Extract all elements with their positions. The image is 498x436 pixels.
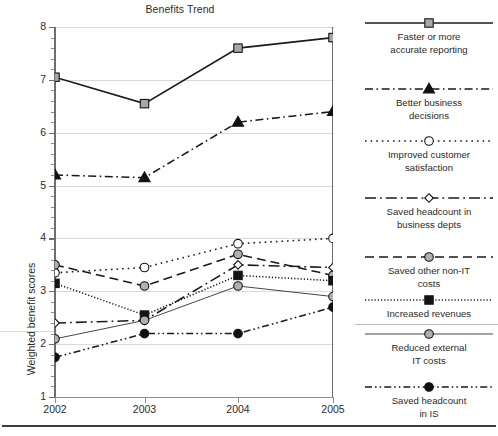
data-point-marker: [140, 263, 149, 272]
x-axis-tick: [55, 397, 56, 403]
y-axis-tick-label: 1: [26, 390, 46, 402]
legend-swatch: [364, 134, 494, 148]
legend-item-1[interactable]: Faster or moreaccurate reporting: [360, 16, 498, 57]
data-point-marker: [234, 282, 243, 291]
y-axis-tick-label: 2: [26, 337, 46, 349]
x-axis-tick-label: 2003: [122, 403, 168, 415]
legend-item-label-continued: in IS: [360, 407, 498, 420]
legend-item-label: Saved headcount: [360, 394, 498, 407]
legend-line-sample: [364, 250, 494, 264]
data-point-marker: [55, 261, 59, 270]
data-point-marker: [234, 261, 243, 270]
legend-item-4[interactable]: Saved headcount inbusiness depts: [360, 191, 498, 232]
data-point-marker: [55, 353, 59, 362]
x-axis-tick: [238, 397, 239, 403]
data-point-marker: [55, 335, 59, 344]
legend-item-label: Saved other non-IT: [360, 264, 498, 277]
legend-item-5[interactable]: Saved other non-ITcosts: [360, 250, 498, 291]
legend-item-label: Improved customer: [360, 148, 498, 161]
legend-item-label-continued: costs: [360, 277, 498, 290]
data-point-marker: [329, 292, 333, 301]
legend-marker-icon: [423, 83, 434, 93]
series-8: [55, 303, 333, 362]
legend-marker-icon: [425, 19, 433, 27]
data-point-marker: [55, 73, 59, 81]
legend-line-sample: [364, 293, 494, 307]
data-point-marker: [234, 329, 243, 338]
data-point-marker: [329, 33, 333, 41]
x-axis-tick-label: 2005: [310, 403, 356, 415]
legend-line-sample: [364, 134, 494, 148]
legend-swatch: [364, 16, 494, 30]
legend-marker-icon: [425, 296, 433, 304]
data-point-marker: [329, 263, 333, 272]
data-point-marker: [55, 279, 59, 287]
legend-swatch: [364, 82, 494, 96]
data-point-marker: [140, 316, 149, 325]
chart-screenshot: Benefits Trend Weighted benefit scores 1…: [0, 0, 498, 436]
legend-item-8[interactable]: Saved headcountin IS: [360, 380, 498, 421]
legend-swatch: [364, 191, 494, 205]
series-canvas: [55, 27, 333, 397]
y-axis-tick-label: 8: [26, 20, 46, 32]
data-point-marker: [234, 250, 243, 259]
legend-item-label-continued: accurate reporting: [360, 43, 498, 56]
series-line: [55, 275, 333, 315]
legend-swatch: [364, 293, 494, 307]
legend-item-7[interactable]: Reduced externalIT costs: [360, 327, 498, 368]
footer-rule: [2, 425, 496, 427]
legend-item-label: Reduced external: [360, 341, 498, 354]
data-point-marker: [55, 268, 59, 277]
series-1: [55, 33, 333, 107]
series-2: [55, 106, 333, 182]
legend-marker-icon: [425, 194, 434, 203]
legend-swatch: [364, 327, 494, 341]
legend-item-label-continued: IT costs: [360, 354, 498, 367]
legend-marker-icon: [425, 383, 434, 392]
legend-marker-icon: [425, 137, 434, 146]
y-axis-tick-labels: 12345678: [22, 0, 46, 436]
data-point-marker: [140, 99, 148, 107]
series-line: [55, 238, 333, 272]
legend-line-sample: [364, 82, 494, 96]
series-line: [55, 38, 333, 104]
data-point-marker: [327, 106, 333, 116]
series-6: [55, 271, 333, 319]
legend-item-label: Better business: [360, 96, 498, 109]
y-axis-tick-label: 5: [26, 179, 46, 191]
legend-item-6[interactable]: Increased revenues: [360, 293, 498, 320]
series-line: [55, 112, 333, 178]
series-3: [55, 234, 333, 277]
data-point-marker: [55, 319, 59, 328]
x-axis-tick: [145, 397, 146, 403]
legend-line-sample: [364, 327, 494, 341]
legend-item-label-continued: decisions: [360, 109, 498, 122]
series-4: [55, 261, 333, 328]
x-axis-tick-label: 2004: [215, 403, 261, 415]
data-point-marker: [234, 44, 242, 52]
legend-item-label: Saved headcount in: [360, 205, 498, 218]
x-axis-tick-label: 2002: [32, 403, 78, 415]
page-title: Benefits Trend: [0, 3, 360, 15]
data-point-marker: [234, 239, 243, 248]
legend-marker-icon: [425, 330, 434, 339]
legend-swatch: [364, 250, 494, 264]
series-line: [55, 254, 333, 286]
x-axis-tick: [333, 397, 334, 403]
legend-marker-icon: [425, 253, 434, 262]
legend-line-sample: [364, 380, 494, 394]
y-axis-tick-label: 7: [26, 73, 46, 85]
legend-item-3[interactable]: Improved customersatisfaction: [360, 134, 498, 175]
series-line: [55, 265, 333, 323]
data-point-marker: [139, 172, 150, 182]
series-5: [55, 250, 333, 290]
series-line: [55, 286, 333, 339]
legend-line-sample: [364, 191, 494, 205]
data-point-marker: [140, 329, 149, 338]
data-point-marker: [329, 234, 333, 243]
legend-item-2[interactable]: Better businessdecisions: [360, 82, 498, 123]
data-point-marker: [55, 169, 61, 179]
legend-divider: [355, 324, 498, 325]
legend-line-sample: [364, 16, 494, 30]
plot-area: [55, 27, 333, 397]
